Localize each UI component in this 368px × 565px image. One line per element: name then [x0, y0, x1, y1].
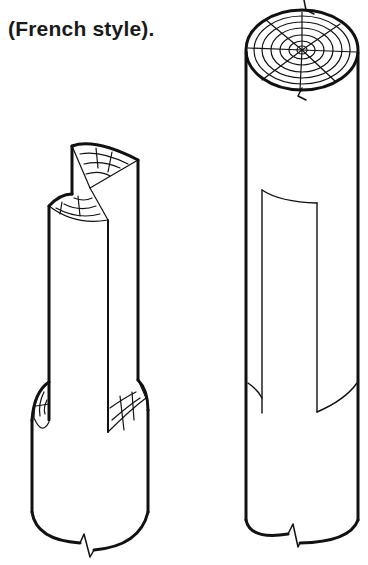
- right-log: [246, 0, 358, 547]
- left-log: [32, 144, 148, 557]
- log-illustration: [0, 0, 368, 565]
